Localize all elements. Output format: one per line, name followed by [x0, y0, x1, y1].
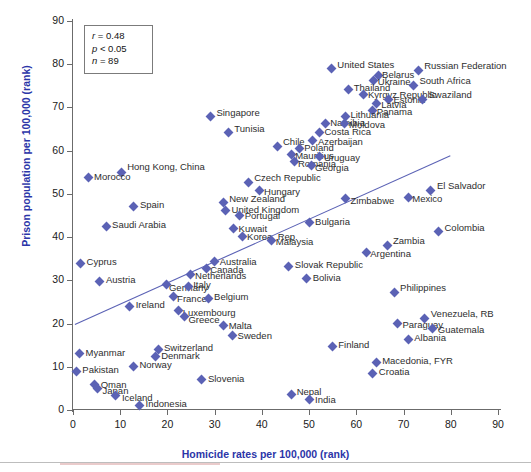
- data-point-marker: [95, 276, 105, 286]
- data-point-label: Macedonia, FYR: [382, 356, 453, 366]
- data-point-label: Greece: [188, 315, 219, 325]
- data-point-marker: [76, 258, 86, 268]
- data-point-label: Pakistan: [82, 365, 118, 375]
- y-tick: [67, 280, 72, 281]
- data-point-marker: [302, 274, 312, 284]
- data-point-label: Spain: [140, 200, 164, 210]
- data-point-label: South Africa: [419, 76, 470, 86]
- data-point-label: Singapore: [216, 108, 259, 118]
- data-point-marker: [125, 301, 135, 311]
- y-tick-label: 80: [38, 58, 64, 68]
- stat-p-value: < 0.05: [100, 43, 127, 54]
- data-point-label: India: [315, 395, 336, 405]
- data-point-label: Swaziland: [428, 90, 471, 100]
- data-point-marker: [229, 224, 239, 234]
- data-point-marker: [205, 112, 215, 122]
- stat-p: p < 0.05: [92, 43, 146, 56]
- data-point-label: Zimbabwe: [350, 196, 394, 206]
- data-point-marker: [221, 206, 231, 216]
- data-point-label: Finland: [338, 340, 369, 350]
- x-tick: [309, 410, 310, 415]
- data-point-label: Philippines: [400, 283, 446, 293]
- data-point-label: Argentina: [370, 249, 411, 259]
- y-axis-line: [72, 19, 73, 412]
- data-point-label: Mexico: [412, 194, 442, 204]
- data-point-label: Hong Kong, China: [127, 162, 205, 172]
- y-axis-label: Prison population per 100,000 (rank): [20, 46, 32, 266]
- x-tick: [451, 410, 452, 415]
- data-point-label: Venezuela, RB: [431, 309, 494, 319]
- y-tick: [67, 410, 72, 411]
- data-point-label: Croatia: [379, 367, 410, 377]
- y-tick-label: 10: [38, 361, 64, 371]
- data-point-marker: [327, 341, 337, 351]
- y-tick: [67, 367, 72, 368]
- x-tick: [262, 410, 263, 415]
- stat-r-symbol: r: [92, 30, 95, 41]
- data-point-label: Sweden: [238, 331, 272, 341]
- x-tick: [73, 410, 74, 415]
- bottom-strip-accent: [60, 463, 220, 465]
- statistics-box: r = 0.48 p < 0.05 n = 89: [84, 25, 153, 74]
- scatter-plot-figure: 0102030405060708090 0102030405060708090 …: [0, 0, 531, 472]
- y-tick-label: 0: [38, 404, 64, 414]
- data-point-marker: [243, 177, 253, 187]
- data-point-marker: [101, 221, 111, 231]
- data-point-label: Tunisia: [234, 124, 264, 134]
- x-tick-label: 90: [483, 418, 513, 430]
- y-tick: [67, 194, 72, 195]
- data-point-label: Costa Rica: [325, 127, 371, 137]
- data-point-marker: [185, 269, 195, 279]
- data-point-label: Albania: [414, 333, 446, 343]
- y-tick: [67, 64, 72, 65]
- data-point-marker: [341, 194, 351, 204]
- y-tick: [67, 237, 72, 238]
- data-point-marker: [344, 84, 354, 94]
- data-point-marker: [197, 375, 207, 385]
- stat-n-symbol: n: [92, 55, 97, 66]
- y-tick: [67, 151, 72, 152]
- data-point-label: Czech Republic: [254, 173, 321, 183]
- data-point-label: Morocco: [94, 172, 130, 182]
- x-tick: [498, 410, 499, 415]
- stat-p-symbol: p: [92, 43, 97, 54]
- data-point-marker: [434, 227, 444, 237]
- data-point-label: Malaysia: [276, 237, 314, 247]
- data-point-marker: [284, 261, 294, 271]
- data-point-label: Cyprus: [87, 257, 117, 267]
- data-point-label: Russian Federation: [424, 61, 506, 71]
- x-tick-label: 20: [152, 418, 182, 430]
- data-point-label: Indonesia: [146, 399, 187, 409]
- x-tick: [167, 410, 168, 415]
- data-point-label: New Zealand: [229, 194, 285, 204]
- x-tick-label: 40: [247, 418, 277, 430]
- y-tick: [67, 107, 72, 108]
- y-tick-label: 60: [38, 145, 64, 155]
- x-tick: [120, 410, 121, 415]
- data-point-label: Austria: [106, 275, 136, 285]
- data-point-marker: [228, 330, 238, 340]
- data-point-label: Belgium: [214, 292, 248, 302]
- x-tick-label: 30: [200, 418, 230, 430]
- y-tick-label: 30: [38, 274, 64, 284]
- data-point-label: France: [177, 294, 207, 304]
- data-point-label: Saudi Arabia: [112, 220, 166, 230]
- data-point-label: El Salvador: [437, 181, 486, 191]
- y-tick: [67, 324, 72, 325]
- data-point-label: Slovak Republic: [295, 260, 363, 270]
- data-point-label: Zambia: [393, 236, 425, 246]
- data-point-marker: [326, 64, 336, 74]
- data-point-label: Ireland: [136, 300, 165, 310]
- data-point-marker: [223, 128, 233, 138]
- y-tick: [67, 21, 72, 22]
- data-point-marker: [83, 173, 93, 183]
- y-tick-label: 50: [38, 188, 64, 198]
- data-point-label: Portugal: [245, 211, 280, 221]
- data-point-marker: [392, 319, 402, 329]
- x-tick: [215, 410, 216, 415]
- data-point-label: Italy: [193, 280, 210, 290]
- y-tick-label: 90: [38, 15, 64, 25]
- x-tick-label: 60: [341, 418, 371, 430]
- x-tick-label: 10: [105, 418, 135, 430]
- data-point-marker: [272, 141, 282, 151]
